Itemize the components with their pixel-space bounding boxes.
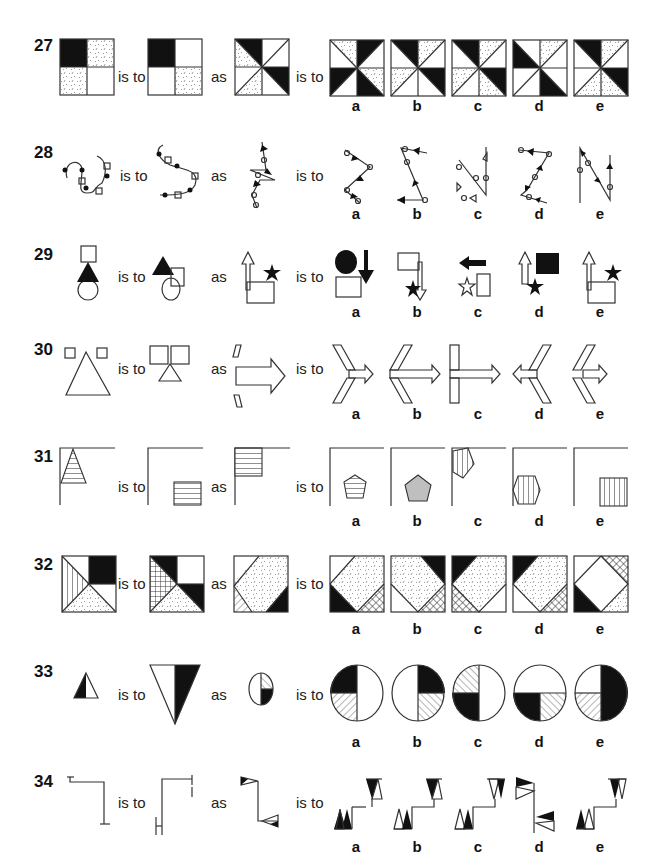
q32-figure-1 — [62, 556, 116, 614]
q34-option-c — [455, 779, 505, 829]
q27-option-d — [513, 40, 567, 96]
as-text: as — [211, 575, 227, 592]
option-label-d[interactable]: d — [529, 512, 549, 529]
is-to-text: is to — [296, 575, 324, 592]
q34-option-b — [394, 779, 442, 829]
question-number-29: 29 — [34, 245, 53, 265]
q33-options — [330, 665, 630, 725]
option-label-a[interactable]: a — [346, 405, 366, 422]
q32-option-c — [452, 556, 506, 612]
option-label-a[interactable]: a — [346, 620, 366, 637]
is-to-text: is to — [296, 268, 324, 285]
option-label-d[interactable]: d — [529, 97, 549, 114]
as-text: as — [211, 360, 227, 377]
option-label-b[interactable]: b — [407, 205, 427, 222]
q31-options — [330, 448, 630, 508]
option-label-a[interactable]: a — [346, 512, 366, 529]
option-label-e[interactable]: e — [590, 620, 610, 637]
option-label-d[interactable]: d — [529, 303, 549, 320]
is-to-text: is to — [296, 478, 324, 495]
q32-options — [330, 556, 630, 616]
q28-option-b — [397, 147, 428, 205]
is-to-text: is to — [118, 575, 146, 592]
option-label-b[interactable]: b — [407, 97, 427, 114]
option-label-a[interactable]: a — [346, 733, 366, 750]
option-label-a[interactable]: a — [346, 303, 366, 320]
is-to-text: is to — [120, 167, 148, 184]
option-label-e[interactable]: e — [590, 97, 610, 114]
q29-figure-1 — [75, 246, 105, 304]
option-label-c[interactable]: c — [468, 405, 488, 422]
q30-figure-3 — [233, 345, 293, 405]
q33-option-a — [330, 665, 383, 721]
option-label-a[interactable]: a — [346, 205, 366, 222]
option-label-c[interactable]: c — [468, 205, 488, 222]
option-label-c[interactable]: c — [468, 838, 488, 855]
q33-option-c — [452, 665, 505, 721]
q30-option-e — [573, 345, 607, 403]
option-label-c[interactable]: c — [468, 512, 488, 529]
q32-option-d — [513, 556, 567, 612]
as-text: as — [211, 268, 227, 285]
question-number-32: 32 — [34, 555, 53, 575]
q28-options — [335, 145, 635, 210]
is-to-text: is to — [296, 686, 324, 703]
q28-option-e — [578, 148, 614, 203]
option-label-c[interactable]: c — [468, 97, 488, 114]
option-label-c[interactable]: c — [468, 620, 488, 637]
q27-option-a — [330, 40, 384, 96]
option-label-e[interactable]: e — [590, 512, 610, 529]
option-label-c[interactable]: c — [468, 303, 488, 320]
option-label-b[interactable]: b — [407, 303, 427, 320]
q31-option-d — [513, 448, 567, 506]
q34-figure-2 — [154, 775, 194, 837]
q32-figure-2 — [150, 556, 204, 614]
option-label-d[interactable]: d — [529, 205, 549, 222]
option-label-d[interactable]: d — [529, 405, 549, 422]
q28-figure-1 — [62, 148, 122, 208]
question-number-28: 28 — [34, 143, 53, 163]
q27-options — [330, 40, 630, 98]
option-label-b[interactable]: b — [407, 838, 427, 855]
option-label-b[interactable]: b — [407, 733, 427, 750]
q33-option-b — [392, 665, 445, 721]
q29-figure-2 — [152, 256, 192, 306]
q28-option-a — [345, 150, 373, 204]
is-to-text: is to — [296, 167, 324, 184]
is-to-text: is to — [118, 686, 146, 703]
q32-option-e — [574, 556, 628, 612]
option-label-e[interactable]: e — [590, 733, 610, 750]
q33-option-e — [574, 665, 628, 721]
q32-option-b — [391, 556, 445, 612]
option-label-b[interactable]: b — [407, 405, 427, 422]
option-label-e[interactable]: e — [590, 838, 610, 855]
q30-figure-1 — [65, 345, 115, 397]
option-label-b[interactable]: b — [407, 512, 427, 529]
q34-option-d — [516, 777, 554, 833]
option-label-c[interactable]: c — [468, 733, 488, 750]
question-number-27: 27 — [34, 36, 53, 56]
q27-figure-1 — [60, 39, 114, 109]
option-label-a[interactable]: a — [346, 97, 366, 114]
option-label-a[interactable]: a — [346, 838, 366, 855]
option-label-e[interactable]: e — [590, 205, 610, 222]
option-label-d[interactable]: d — [529, 838, 549, 855]
q30-options — [333, 345, 643, 405]
q30-option-c — [450, 345, 500, 403]
option-label-d[interactable]: d — [529, 620, 549, 637]
q33-figure-1 — [74, 673, 98, 701]
option-label-e[interactable]: e — [590, 405, 610, 422]
q34-option-a — [334, 779, 382, 829]
q31-option-a — [330, 448, 384, 506]
as-text: as — [211, 68, 227, 85]
q33-figure-3 — [248, 672, 278, 708]
option-label-e[interactable]: e — [590, 303, 610, 320]
question-number-33: 33 — [34, 662, 53, 682]
question-number-31: 31 — [34, 447, 53, 467]
question-number-34: 34 — [34, 772, 53, 792]
option-label-b[interactable]: b — [407, 620, 427, 637]
option-label-d[interactable]: d — [529, 733, 549, 750]
q34-figure-1 — [66, 776, 112, 828]
q27-option-c — [452, 40, 506, 96]
q34-options — [334, 777, 634, 837]
